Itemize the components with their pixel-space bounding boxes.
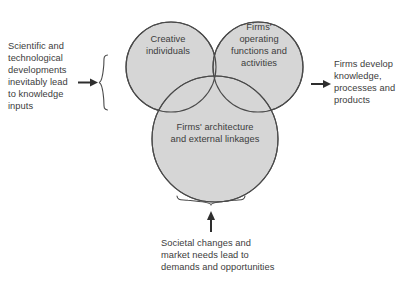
arrow-right-icon-output [311,80,331,88]
brace-left [99,55,108,110]
circle-label-creative-individuals: Creative individuals [131,33,205,57]
circle-label-firms-architecture-linkages: Firms' architecture and external linkage… [152,121,278,145]
arrow-up-icon-input [207,211,215,232]
circle-label-firms-operating-functions: Firms' operating functions and activitie… [219,21,299,69]
annotation-text-input-left: Scientific and technological development… [8,40,86,113]
venn-diagram-figure: Creative individuals Firms' operating fu… [0,0,406,284]
annotation-text-output-right: Firms develop knowledge, processes and p… [334,58,406,106]
annotation-text-input-bottom: Societal changes and market needs lead t… [161,237,341,273]
